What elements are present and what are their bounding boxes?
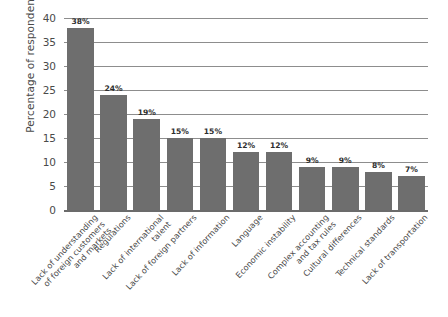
y-tick-label: 15	[28, 133, 56, 144]
bar-chart: Percentage of respondents 40353025201510…	[0, 0, 448, 317]
bar[interactable]	[266, 152, 292, 210]
bar[interactable]	[167, 138, 193, 210]
y-tick-label: 25	[28, 85, 56, 96]
bar-value-label: 15%	[171, 128, 189, 136]
bar[interactable]	[332, 167, 358, 210]
bar-value-label: 19%	[138, 109, 156, 117]
bar-value-label: 12%	[237, 142, 255, 150]
x-axis-line	[64, 210, 428, 212]
bar[interactable]	[67, 28, 93, 210]
bar-value-label: 38%	[71, 18, 89, 26]
bar[interactable]	[100, 95, 126, 210]
bar-value-label: 24%	[105, 85, 123, 93]
y-tick-label: 35	[28, 37, 56, 48]
y-tick-label: 40	[28, 13, 56, 24]
y-tick-label: 10	[28, 157, 56, 168]
y-tick-label: 0	[28, 205, 56, 216]
bar-value-label: 8%	[372, 162, 385, 170]
bar-value-label: 12%	[270, 142, 288, 150]
bar-value-label: 15%	[204, 128, 222, 136]
bar[interactable]	[233, 152, 259, 210]
bars-group: 38%24%19%15%15%12%12%9%9%8%7%	[64, 18, 428, 210]
bar-value-label: 9%	[339, 157, 352, 165]
y-tick-label: 20	[28, 109, 56, 120]
plot-area: 38%24%19%15%15%12%12%9%9%8%7%	[64, 18, 428, 210]
bar[interactable]	[133, 119, 159, 210]
bar[interactable]	[299, 167, 325, 210]
x-axis-category-labels: Lack of understanding of foreign custome…	[64, 213, 448, 317]
y-tick-label: 5	[28, 181, 56, 192]
y-tick-label: 30	[28, 61, 56, 72]
bar[interactable]	[398, 176, 424, 210]
bar-value-label: 7%	[405, 166, 418, 174]
bar[interactable]	[365, 172, 391, 210]
bar-value-label: 9%	[306, 157, 319, 165]
bar[interactable]	[200, 138, 226, 210]
